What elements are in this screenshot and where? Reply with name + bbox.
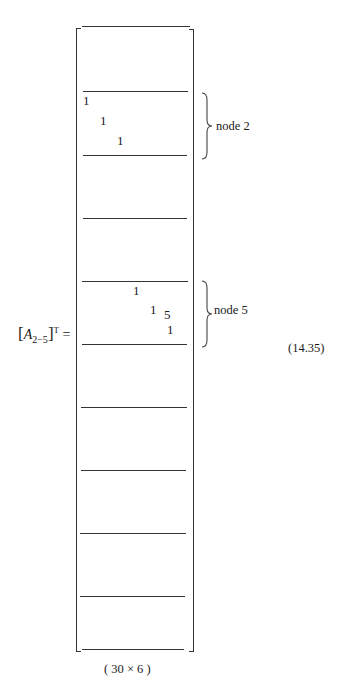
matrix-entry: 1 (167, 323, 174, 336)
brace-label-node-2: node 2 (216, 119, 250, 134)
left-bracket-top-serif (76, 28, 81, 29)
lhs-matrix-symbol: A (24, 327, 33, 342)
right-brace-icon (200, 280, 214, 348)
matrix-entry: 1 (133, 284, 140, 297)
separator-line (82, 344, 187, 345)
right-bracket-line (193, 29, 194, 652)
separator-line (83, 155, 187, 156)
separator-line (83, 91, 188, 92)
matrix-dimensions: ( 30 × 6 ) (104, 662, 151, 677)
left-bracket-bottom-serif (76, 651, 81, 652)
matrix-entry: 1 (117, 134, 124, 147)
matrix-bottom-line (82, 649, 184, 650)
matrix-top-line (82, 26, 190, 27)
right-brace-icon (200, 92, 214, 160)
matrix-entry: 1 (150, 303, 157, 316)
right-bracket-top-serif (189, 29, 194, 30)
separator-line (81, 470, 186, 471)
separator-line (81, 407, 187, 408)
matrix-entry: 5 (164, 308, 171, 321)
brace-label-node-5: node 5 (214, 303, 248, 318)
left-bracket-line (76, 28, 77, 652)
lhs-superscript: T (54, 325, 60, 335)
matrix-entry: 1 (100, 114, 107, 127)
separator-line (80, 533, 186, 534)
separator-line (80, 596, 185, 597)
equation-number: (14.35) (288, 341, 324, 356)
equation-lhs: [A2−5]T = (18, 324, 70, 345)
right-bracket-bottom-serif (189, 651, 194, 652)
lhs-subscript: 2−5 (32, 334, 48, 345)
equals-sign: = (63, 327, 71, 342)
matrix-entry: 1 (83, 94, 90, 107)
separator-line (83, 218, 187, 219)
